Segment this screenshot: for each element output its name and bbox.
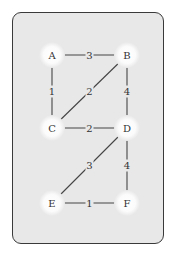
node-label: B (123, 50, 130, 61)
edge-weight-label: 2 (86, 123, 92, 134)
edge-weight-label: 3 (86, 50, 92, 61)
graph-canvas: 31242341 ABCDEF (0, 0, 178, 261)
node-label: D (123, 123, 131, 134)
node-label: F (124, 198, 131, 209)
node-A: A (39, 42, 65, 68)
node-F: F (114, 190, 140, 216)
edge-weight-label: 1 (86, 198, 92, 209)
node-B: B (114, 42, 140, 68)
node-label: E (48, 198, 55, 209)
node-label: C (48, 123, 56, 134)
node-D: D (114, 115, 140, 141)
edge-weight-label: 2 (86, 86, 92, 97)
node-E: E (39, 190, 65, 216)
node-label: A (47, 50, 56, 61)
edge-weight-label: 1 (49, 86, 55, 97)
edge-weight-label: 3 (86, 160, 92, 171)
edge-weight-label: 4 (124, 86, 130, 97)
node-C: C (39, 115, 65, 141)
edge-weight-label: 4 (124, 160, 130, 171)
